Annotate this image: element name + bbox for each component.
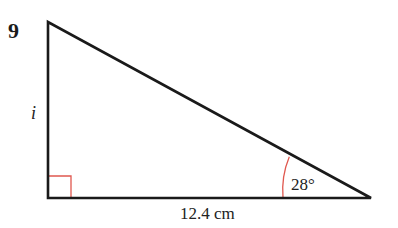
triangle-diagram: 9 i 12.4 cm 28° <box>0 0 398 228</box>
side-label-base: 12.4 cm <box>180 204 235 223</box>
question-number: 9 <box>8 18 19 43</box>
angle-label: 28° <box>291 175 315 194</box>
side-label-vertical: i <box>31 103 36 123</box>
right-angle-marker <box>48 176 71 198</box>
right-triangle <box>48 22 371 198</box>
angle-arc <box>283 157 290 198</box>
